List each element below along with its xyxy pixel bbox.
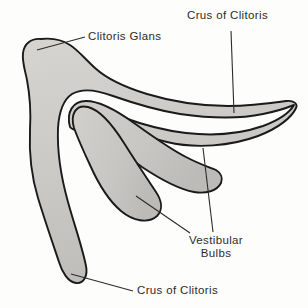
- label-vestibular-bulbs-line2: Bulbs: [183, 247, 249, 260]
- label-crus-of-clitoris-lower: Crus of Clitoris: [137, 284, 218, 297]
- label-clitoris-glans: Clitoris Glans: [88, 30, 161, 43]
- label-crus-of-clitoris-upper: Crus of Clitoris: [187, 9, 268, 22]
- anatomy-illustration: [0, 0, 308, 308]
- label-vestibular-bulbs-line1: Vestibular: [189, 234, 243, 246]
- label-vestibular-bulbs: VestibularBulbs: [183, 234, 249, 259]
- leader-line-crus-upper: [231, 31, 234, 113]
- anatomy-figure: Crus of Clitoris Clitoris Glans Vestibul…: [0, 0, 308, 308]
